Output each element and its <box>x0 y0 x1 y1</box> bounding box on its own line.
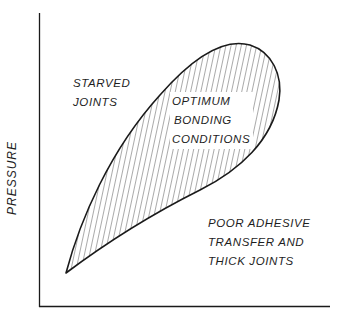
label-line: THICK JOINTS <box>208 252 311 271</box>
label-line: POOR ADHESIVE <box>208 214 311 233</box>
region-label-poor-adhesive: POOR ADHESIVE TRANSFER AND THICK JOINTS <box>208 214 311 271</box>
label-line: OPTIMUM <box>172 92 250 111</box>
label-line: CONDITIONS <box>172 130 250 149</box>
region-label-optimum-bonding: OPTIMUM BONDING CONDITIONS <box>170 92 253 149</box>
label-line: STARVED <box>73 74 130 93</box>
y-axis-label: PRESSURE <box>5 141 19 215</box>
label-line: JOINTS <box>73 93 130 112</box>
region-label-starved-joints: STARVED JOINTS <box>73 74 130 112</box>
label-line: TRANSFER AND <box>208 233 311 252</box>
label-line: BONDING <box>172 111 250 130</box>
process-window-diagram <box>0 0 338 325</box>
